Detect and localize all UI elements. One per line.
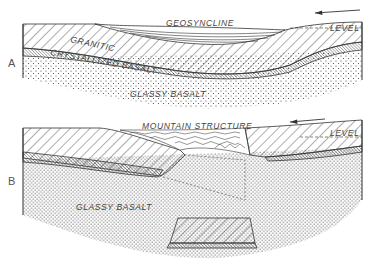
- label-level-b: LEVEL: [330, 128, 359, 138]
- label-mountain-structure: MOUNTAIN STRUCTURE: [142, 121, 252, 131]
- sunken-granitic-block: [170, 218, 255, 243]
- panel-letter-b: B: [8, 175, 15, 187]
- panel-letter-a: A: [8, 57, 16, 69]
- label-level-a: LEVEL: [330, 23, 359, 33]
- geological-cross-section-diagram: GEOSYNCLINE GRANITIC CRYSTALLIZED BASALT…: [0, 0, 372, 266]
- label-glassy-basalt-a: GLASSY BASALT: [130, 89, 206, 99]
- label-glassy-basalt-b: GLASSY BASALT: [76, 202, 152, 212]
- sunken-basalt-band: [167, 243, 257, 248]
- arrow-left-icon-a: [315, 10, 360, 15]
- panel-b: MOUNTAIN STRUCTURE GLASSY BASALT LEVEL B: [8, 119, 362, 258]
- label-geosyncline: GEOSYNCLINE: [166, 18, 234, 28]
- panel-a: GEOSYNCLINE GRANITIC CRYSTALLIZED BASALT…: [8, 10, 362, 108]
